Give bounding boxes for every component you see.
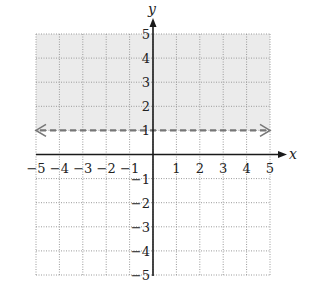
y-tick-label: 4 xyxy=(142,51,150,66)
x-tick-label: 3 xyxy=(219,161,227,176)
x-axis-label: x xyxy=(289,146,297,162)
x-tick-label: −5 xyxy=(26,161,45,176)
x-axis-arrow-icon xyxy=(278,151,287,158)
y-axis-arrow-icon xyxy=(150,18,157,27)
coordinate-plane: −5−4−3−2−112345−5−4−3−2−112345 x y xyxy=(0,0,315,288)
x-tick-label: −3 xyxy=(73,161,92,176)
x-tick-label: 4 xyxy=(242,161,250,176)
y-tick-label: −1 xyxy=(131,172,150,187)
y-tick-label: 2 xyxy=(142,99,150,114)
x-tick-label: 1 xyxy=(172,161,180,176)
y-tick-label: −3 xyxy=(131,220,150,235)
y-tick-label: −2 xyxy=(131,196,150,211)
y-tick-label: 5 xyxy=(142,27,150,42)
x-tick-label: 2 xyxy=(196,161,204,176)
y-tick-label: 3 xyxy=(142,75,150,90)
y-tick-label: −5 xyxy=(131,268,150,283)
x-tick-label: −4 xyxy=(50,161,69,176)
y-tick-label: 1 xyxy=(142,123,150,138)
y-tick-label: −4 xyxy=(131,244,150,259)
x-tick-label: 5 xyxy=(266,161,274,176)
x-tick-label: −2 xyxy=(97,161,116,176)
y-axis-label: y xyxy=(147,1,157,17)
